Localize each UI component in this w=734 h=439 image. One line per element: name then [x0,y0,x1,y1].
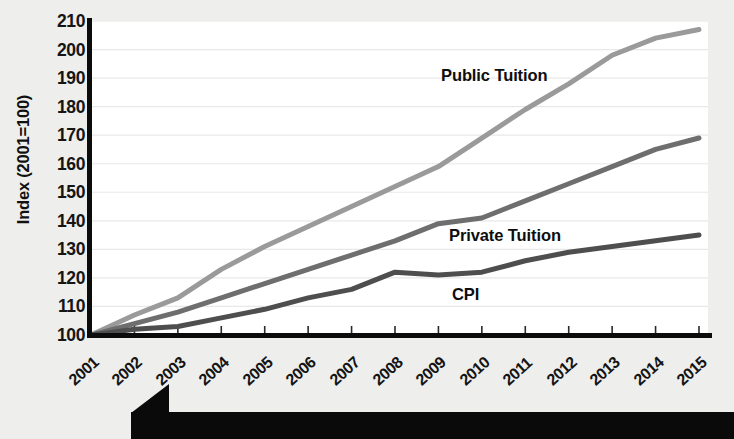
y-axis-tick-150: 150 [30,182,85,203]
y-axis-tick-140: 140 [30,210,85,231]
y-axis-tick-170: 170 [30,125,85,146]
banner-arrow-decoration [131,384,169,413]
series-line-private-tuition [91,138,699,335]
series-label-private-tuition: Private Tuition [449,226,561,245]
y-axis-tick-210: 210 [30,11,85,32]
chart-svg [91,21,708,335]
series-line-public-tuition [91,30,699,335]
x-axis-tick-labels: 2001200220032004200520062007200820092010… [0,336,734,398]
x-axis-tick-2014: 2014 [630,353,667,389]
series-line-cpi [91,235,699,335]
y-axis-tick-130: 130 [30,239,85,260]
y-axis-tick-200: 200 [30,39,85,60]
x-axis-tick-2013: 2013 [586,353,623,389]
series-label-public-tuition: Public Tuition [441,66,547,85]
x-axis-tick-2010: 2010 [456,353,493,389]
x-axis-tick-2011: 2011 [500,354,536,389]
series-label-cpi: CPI [452,285,479,304]
x-axis-tick-2008: 2008 [369,353,406,389]
y-axis-tick-labels: 100110120130140150160170180190200210 [30,12,85,337]
y-axis-tick-180: 180 [30,96,85,117]
chart-figure: Index (2001=100) 10011012013014015016017… [0,0,734,439]
bottom-banner [131,412,734,439]
x-axis-tick-2005: 2005 [239,353,276,389]
x-axis-tick-2015: 2015 [673,353,710,389]
y-axis-tick-110: 110 [30,296,85,317]
y-axis-line [87,18,92,338]
plot-area [91,21,708,335]
x-axis-tick-2007: 2007 [326,353,363,389]
x-axis-tick-2012: 2012 [543,353,580,389]
x-axis-tick-2001: 2001 [65,353,102,389]
y-axis-tick-160: 160 [30,153,85,174]
x-axis-tick-2009: 2009 [413,353,450,389]
x-axis-tick-2004: 2004 [196,353,233,389]
y-axis-tick-120: 120 [30,267,85,288]
y-axis-tick-190: 190 [30,68,85,89]
x-axis-tick-2006: 2006 [282,353,319,389]
